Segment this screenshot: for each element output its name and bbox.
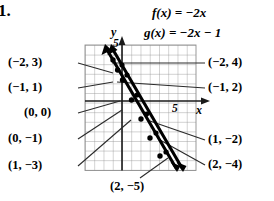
point-marker-g-extra: [147, 135, 152, 140]
x-axis-name: x: [196, 104, 202, 116]
y-axis-name: y: [111, 26, 116, 38]
point-marker-g-neg2-3: [110, 57, 115, 62]
coord-label-neg1-1: (−1, 1): [8, 81, 42, 94]
point-marker-g-1-neg3: [129, 97, 134, 102]
point-marker-g-0-neg1: [120, 77, 125, 82]
coord-label-neg2-3: (−2, 3): [8, 56, 42, 69]
point-marker-g-extra2: [157, 153, 162, 158]
point-marker-f-2-neg4: [153, 130, 158, 135]
coord-label-2-neg4: (2, −4): [208, 158, 242, 171]
point-marker-f-neg1-2: [124, 72, 129, 77]
point-marker-g-neg1-1: [115, 67, 120, 72]
coord-label-neg2-4: (−2, 4): [208, 56, 242, 69]
point-marker-f-1-neg2: [144, 111, 149, 116]
figure-page: 1. f(x) = −2x g(x) = −2x − 1: [0, 0, 274, 201]
point-marker-g-2-neg5: [138, 116, 143, 121]
y-axis-tick-label-5: 5: [113, 38, 119, 50]
x-axis-tick-label-5: 5: [172, 103, 178, 115]
point-marker-f-0-0: [134, 92, 139, 97]
coord-label-1-neg2: (1, −2): [208, 133, 242, 146]
coord-label-1-neg3: (1, −3): [8, 159, 42, 172]
coord-label-0-0: (0, 0): [24, 106, 51, 119]
coord-label-2-neg5: (2, −5): [110, 180, 144, 193]
point-marker-f-extra: [163, 149, 168, 154]
coord-label-neg1-2: (−1, 2): [208, 81, 242, 94]
coord-label-0-neg1: (0, −1): [8, 132, 42, 145]
point-marker-f-neg2-4: [119, 62, 124, 67]
